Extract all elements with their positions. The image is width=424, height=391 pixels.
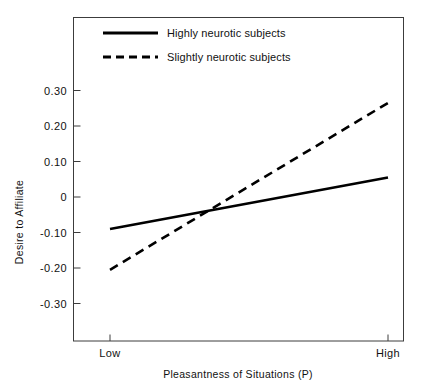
y-tick-label-4: -0.10 bbox=[40, 227, 67, 239]
y-tick-label-3: 0 bbox=[60, 191, 67, 203]
y-tick-label-0: 0.30 bbox=[44, 85, 67, 97]
y-tick-label-6: -0.30 bbox=[40, 298, 67, 310]
legend-label-highly-neurotic: Highly neurotic subjects bbox=[167, 27, 286, 39]
y-axis-title: Desire to Affiliate bbox=[13, 180, 25, 264]
x-axis-title: Pleasantness of Situations (P) bbox=[163, 368, 313, 380]
plot-frame bbox=[74, 18, 404, 342]
y-tick-label-2: 0.10 bbox=[44, 156, 67, 168]
y-tick-label-5: -0.20 bbox=[40, 262, 67, 274]
chart-figure: 0.30 0.20 0.10 0 -0.10 -0.20 -0.30 Low H… bbox=[0, 0, 424, 391]
line-chart: 0.30 0.20 0.10 0 -0.10 -0.20 -0.30 Low H… bbox=[0, 0, 424, 391]
x-tick-label-high: High bbox=[376, 347, 400, 359]
legend-label-slightly-neurotic: Slightly neurotic subjects bbox=[167, 51, 291, 63]
y-tick-label-1: 0.20 bbox=[44, 120, 67, 132]
x-tick-label-low: Low bbox=[99, 347, 120, 359]
